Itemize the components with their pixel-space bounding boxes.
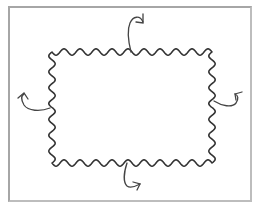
top-arrow-icon (128, 14, 143, 52)
diagram-svg (0, 0, 260, 218)
diagram-canvas: Rectangle with wavy (sinusoidal) edges a… (0, 0, 260, 218)
wavy-rectangle (49, 49, 215, 166)
bottom-arrow-icon (124, 163, 140, 190)
left-arrow-icon (18, 93, 50, 110)
right-arrow-icon (214, 92, 242, 106)
